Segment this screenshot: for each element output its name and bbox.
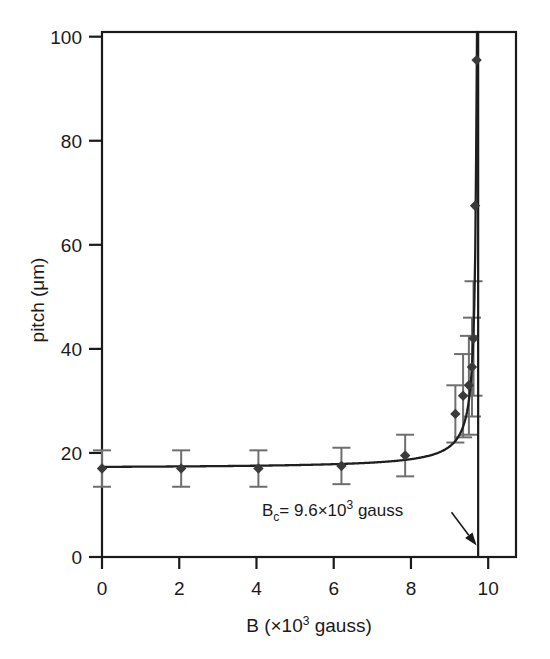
x-tick-label: 0	[97, 578, 108, 599]
x-axis-title: B (×103 gauss)	[246, 614, 372, 636]
x-tick-label: 4	[251, 578, 262, 599]
y-tick-label: 20	[61, 443, 82, 464]
plot-canvas: 0246810 020406080100 Bc= 9.6×103 gauss B…	[0, 0, 550, 659]
y-tick-label: 100	[50, 27, 82, 48]
y-tick-label: 60	[61, 235, 82, 256]
x-tick-label: 8	[406, 578, 417, 599]
x-tick-label: 6	[328, 578, 339, 599]
chart-figure: 0246810 020406080100 Bc= 9.6×103 gauss B…	[0, 0, 550, 659]
y-tick-label: 40	[61, 339, 82, 360]
y-axis-title: pitch (μm)	[27, 258, 48, 343]
x-tick-label: 2	[174, 578, 185, 599]
x-tick-label: 10	[478, 578, 499, 599]
y-tick-label: 0	[71, 547, 82, 568]
figure-background	[0, 0, 550, 659]
y-tick-label: 80	[61, 131, 82, 152]
